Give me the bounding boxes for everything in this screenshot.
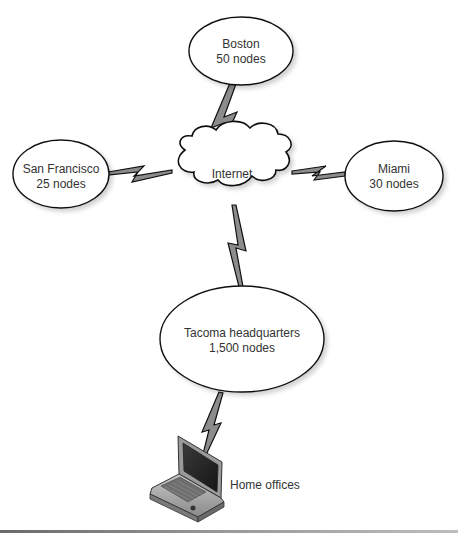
node-sf-name: San Francisco — [23, 162, 100, 176]
node-tacoma-name: Tacoma headquarters — [184, 326, 300, 340]
node-miami-count: 30 nodes — [369, 177, 418, 191]
node-tacoma-headquarters[interactable]: Tacoma headquarters 1,500 nodes — [160, 286, 324, 392]
node-miami[interactable]: Miami 30 nodes — [345, 141, 443, 211]
node-boston-count: 50 nodes — [216, 52, 265, 66]
laptop-icon[interactable] — [150, 436, 224, 522]
link-internet-tacoma — [228, 205, 246, 287]
node-boston[interactable]: Boston 50 nodes — [189, 17, 293, 85]
node-san-francisco[interactable]: San Francisco 25 nodes — [13, 140, 109, 208]
link-sanfrancisco-internet — [108, 166, 172, 182]
home-offices-label: Home offices — [230, 478, 300, 492]
node-boston-name: Boston — [222, 37, 259, 51]
node-miami-name: Miami — [378, 162, 410, 176]
node-tacoma-count: 1,500 nodes — [209, 341, 275, 355]
internet-label: Internet — [212, 167, 253, 181]
node-sf-count: 25 nodes — [36, 177, 85, 191]
link-miami-internet — [292, 166, 345, 180]
node-internet-cloud[interactable]: Internet — [178, 121, 291, 185]
link-tacoma-homeoffices — [202, 392, 223, 455]
